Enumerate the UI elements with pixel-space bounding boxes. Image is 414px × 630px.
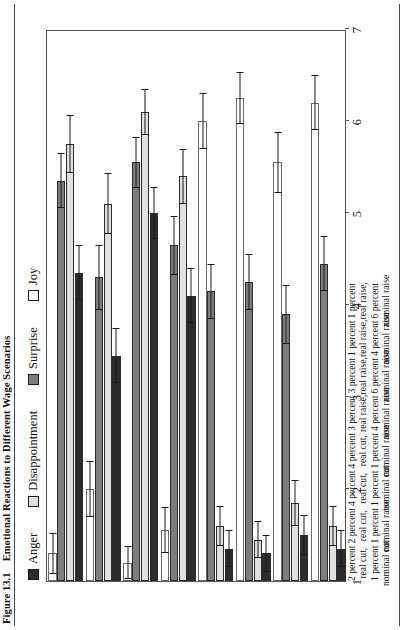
category-label-line: 6 percent bbox=[369, 271, 380, 331]
legend-label: Disappointment bbox=[26, 411, 41, 491]
bar-row bbox=[236, 31, 244, 581]
bar-row bbox=[207, 31, 215, 581]
error-bar bbox=[78, 245, 79, 300]
bar-row bbox=[320, 31, 328, 581]
error-bar bbox=[61, 153, 62, 208]
bar-surprise bbox=[282, 314, 290, 581]
bar-row bbox=[337, 31, 345, 581]
bar-row bbox=[254, 31, 262, 581]
bar-group bbox=[235, 31, 273, 581]
bar-row bbox=[150, 31, 158, 581]
bar-surprise bbox=[245, 282, 253, 581]
error-bar bbox=[240, 72, 241, 124]
bar-disappointment bbox=[141, 112, 149, 581]
bar-group bbox=[122, 31, 160, 581]
bar-row bbox=[179, 31, 187, 581]
bar-disappointment bbox=[179, 176, 187, 581]
plot-area bbox=[47, 31, 345, 581]
bar-joy bbox=[198, 121, 206, 581]
figure-bottom-divider bbox=[399, 4, 400, 626]
error-bar bbox=[220, 506, 221, 546]
bar-row bbox=[141, 31, 149, 581]
category-label-line: real raise, bbox=[357, 271, 368, 331]
bar-row bbox=[329, 31, 337, 581]
error-bar bbox=[145, 89, 146, 135]
bar-group bbox=[47, 31, 85, 581]
bar-row bbox=[95, 31, 103, 581]
error-bar bbox=[182, 149, 183, 204]
bar-disappointment bbox=[104, 204, 112, 581]
bar-disappointment bbox=[66, 144, 74, 581]
bar-anger bbox=[75, 273, 83, 581]
error-bar bbox=[332, 506, 333, 546]
error-bar bbox=[98, 245, 99, 309]
error-bar bbox=[52, 533, 53, 573]
legend-label: Surprise bbox=[26, 327, 41, 369]
value-tick-mark bbox=[345, 28, 349, 29]
error-bar bbox=[341, 530, 342, 567]
error-bar bbox=[116, 328, 117, 383]
bar-row bbox=[66, 31, 74, 581]
bar-row bbox=[216, 31, 224, 581]
figure-number: Figure 13.1 bbox=[1, 572, 12, 624]
chart-legend: AngerDisappointmentSurpriseJoy bbox=[22, 26, 44, 604]
error-bar bbox=[70, 115, 71, 174]
legend-swatch-icon bbox=[28, 290, 39, 301]
bar-surprise bbox=[320, 264, 328, 581]
figure-caption: Emotional Reactions to Different Wage Sc… bbox=[1, 336, 12, 562]
bar-group bbox=[272, 31, 310, 581]
bar-row bbox=[245, 31, 253, 581]
legend-label: Joy bbox=[26, 268, 41, 285]
bar-row bbox=[161, 31, 169, 581]
bar-joy bbox=[273, 162, 281, 581]
bar-row bbox=[282, 31, 290, 581]
category-label-line: 1 percent bbox=[346, 271, 357, 331]
bar-group bbox=[160, 31, 198, 581]
legend-item-surprise: Surprise bbox=[26, 327, 41, 385]
bar-row bbox=[104, 31, 112, 581]
title-divider bbox=[14, 4, 15, 626]
legend-item-disappointment: Disappointment bbox=[26, 411, 41, 507]
legend-swatch-icon bbox=[28, 496, 39, 507]
bar-joy bbox=[236, 98, 244, 581]
figure-title: Figure 13.1Emotional Reactions to Differ… bbox=[1, 4, 12, 624]
bar-row bbox=[262, 31, 270, 581]
bar-row bbox=[187, 31, 195, 581]
bar-row bbox=[225, 31, 233, 581]
error-bar bbox=[295, 480, 296, 526]
error-bar bbox=[202, 93, 203, 148]
bar-surprise bbox=[207, 291, 215, 581]
bar-row bbox=[48, 31, 56, 581]
bar-row bbox=[291, 31, 299, 581]
error-bar bbox=[257, 521, 258, 558]
category-label: 1 percentreal raise,6 percentnominal rai… bbox=[346, 271, 392, 331]
bar-joy bbox=[311, 103, 319, 581]
bar-row bbox=[75, 31, 83, 581]
error-bar bbox=[266, 535, 267, 572]
legend-item-joy: Joy bbox=[26, 268, 41, 301]
error-bar bbox=[107, 173, 108, 234]
error-bar bbox=[211, 264, 212, 319]
plot-frame bbox=[46, 30, 346, 582]
legend-item-anger: Anger bbox=[26, 533, 41, 580]
error-bar bbox=[136, 137, 137, 189]
error-bar bbox=[191, 268, 192, 323]
bar-row bbox=[273, 31, 281, 581]
category-axis-labels: 2 percentreal cut,1 percentnominal cut2 … bbox=[346, 30, 406, 582]
bar-group bbox=[197, 31, 235, 581]
bar-anger bbox=[150, 213, 158, 581]
error-bar bbox=[323, 236, 324, 291]
legend-label: Anger bbox=[26, 533, 41, 564]
bar-row bbox=[57, 31, 65, 581]
bar-group bbox=[310, 31, 348, 581]
error-bar bbox=[286, 285, 287, 344]
bar-surprise bbox=[170, 245, 178, 581]
bar-row bbox=[300, 31, 308, 581]
error-bar bbox=[248, 254, 249, 309]
error-bar bbox=[277, 132, 278, 193]
legend-swatch-icon bbox=[28, 374, 39, 385]
bar-row bbox=[198, 31, 206, 581]
chart-shell: AngerDisappointmentSurpriseJoy 1234567 2… bbox=[22, 26, 382, 604]
bar-row bbox=[170, 31, 178, 581]
bar-group bbox=[85, 31, 123, 581]
